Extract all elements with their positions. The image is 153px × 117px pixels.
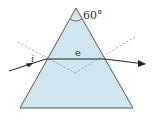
apex-angle-label: 60° xyxy=(83,9,103,22)
prism xyxy=(20,8,133,108)
prism-diagram: 60° i e xyxy=(0,0,153,117)
emergent-arrow-icon xyxy=(138,60,146,67)
incidence-label: i xyxy=(31,53,34,64)
internal-ray-label: e xyxy=(75,47,81,58)
